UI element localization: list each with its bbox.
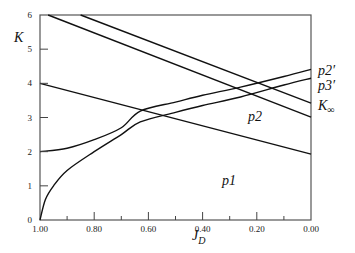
y-tick-label: 1	[28, 181, 33, 191]
x-tick-label: 1.00	[32, 224, 48, 234]
label-k-sub: ∞	[327, 104, 334, 115]
y-axis-label: K	[13, 30, 24, 45]
series-line	[48, 15, 311, 117]
label-k-infinity: K∞	[317, 98, 334, 115]
series-line	[40, 83, 311, 154]
series-line	[40, 78, 311, 220]
label-p2-prime: p2′	[317, 63, 336, 78]
x-tick-label: 0.60	[141, 224, 157, 234]
plot-frame	[40, 15, 311, 220]
y-tick-label: 2	[28, 147, 33, 157]
y-tick-label: 4	[28, 78, 33, 88]
y-tick-label: 3	[28, 113, 33, 123]
series-line	[81, 15, 311, 103]
label-p2: p2	[247, 109, 262, 124]
x-tick-label: 0.00	[303, 224, 319, 234]
x-axis-label-sub: D	[197, 235, 206, 246]
axis-ticks: 01234561.000.800.600.400.200.00	[28, 10, 320, 234]
chart: 01234561.000.800.600.400.200.00 K JD p2′…	[0, 0, 355, 253]
x-tick-label: 0.20	[249, 224, 265, 234]
series-line	[40, 69, 311, 151]
y-tick-label: 6	[28, 10, 33, 20]
label-p1: p1	[221, 173, 236, 188]
label-p3-prime: p3′	[317, 78, 336, 93]
label-k-main: K	[317, 98, 328, 113]
x-tick-label: 0.80	[86, 224, 102, 234]
y-tick-label: 5	[28, 44, 33, 54]
plot-area	[40, 15, 311, 220]
